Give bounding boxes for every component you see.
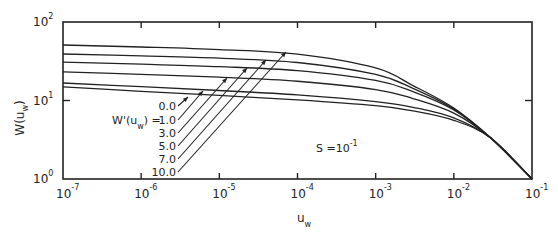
plot-border [63, 22, 532, 179]
curve-10-0 [63, 45, 532, 179]
x-tick-label: 10-2 [447, 183, 470, 201]
s-annotation: S =10-1 [316, 139, 358, 155]
x-tick-label: 10-6 [134, 183, 157, 201]
x-tick-label: 10-3 [369, 183, 392, 201]
curve-label-arrows [178, 52, 286, 172]
y-tick-label: 101 [33, 91, 53, 108]
curve-label: 10.0 [152, 166, 177, 179]
curve-label: 0.0 [159, 100, 177, 113]
x-tick-label: 10-1 [525, 183, 548, 201]
chart: W(uw) uw W'(uw) = S =10-1 0.01.03.05.07.… [0, 0, 558, 240]
curve-label: 3.0 [159, 127, 177, 140]
x-axis-title: uw [297, 211, 312, 229]
x-tick-label: 10-7 [56, 183, 79, 201]
tick-labels: 10-710-610-510-410-310-210-1100101102 [33, 12, 548, 201]
arrow-3-0 [178, 78, 227, 133]
y-tick-label: 100 [33, 169, 53, 186]
curve-0-0 [63, 87, 532, 179]
curve-label: 1.0 [159, 114, 177, 127]
y-tick-label: 102 [33, 12, 53, 29]
curve-1-0 [63, 83, 532, 179]
arrow-7-0 [178, 60, 266, 159]
x-tick-label: 10-4 [291, 183, 314, 201]
curve-labels: 0.01.03.05.07.010.0 [152, 100, 177, 179]
legend-title: W'(uw) = [112, 114, 161, 131]
axis-ticks [63, 22, 532, 179]
y-axis-title: W(uw) [13, 100, 30, 135]
curve-label: 5.0 [159, 140, 177, 153]
curve-label: 7.0 [159, 153, 177, 166]
arrow-10-0 [178, 52, 286, 172]
x-tick-label: 10-5 [212, 183, 235, 201]
arrow-1-0 [178, 91, 203, 120]
plot-frame [63, 22, 532, 179]
curves [63, 45, 532, 179]
